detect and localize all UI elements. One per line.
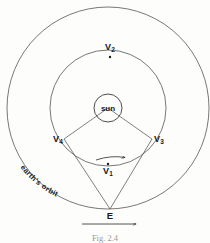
v1-label: V1 — [103, 166, 113, 177]
sun-label: sun — [101, 104, 115, 113]
v1-label-base: V — [103, 166, 109, 176]
earths-orbit-label: earth's orbit — [19, 163, 60, 199]
sightline-earth-to-v3 — [110, 139, 152, 209]
earth-label: E — [107, 210, 113, 221]
v4-label-subscript: 4 — [59, 138, 63, 145]
earths-orbit-label-text: earth's orbit — [19, 163, 60, 199]
figure-caption: Fig. 2.4 — [0, 233, 210, 243]
v3-label-base: V — [154, 134, 160, 144]
figure-container: sun V2 V3 V4 V1 E earth's orbit Fig. 2.4 — [0, 0, 210, 243]
v3-label: V3 — [154, 134, 164, 145]
orbit-diagram: sun V2 V3 V4 V1 E earth's orbit — [0, 0, 210, 243]
inner-orbit-direction-arrow — [96, 157, 125, 160]
v2-label: V2 — [105, 42, 115, 53]
v4-label-base: V — [53, 134, 59, 144]
v2-label-subscript: 2 — [111, 46, 115, 53]
v2-label-base: V — [105, 42, 111, 52]
v3-label-subscript: 3 — [160, 138, 164, 145]
v4-label: V4 — [53, 134, 63, 145]
v1-label-subscript: 1 — [109, 170, 113, 177]
point-marker-v2 — [109, 56, 111, 58]
point-marker-v1 — [107, 163, 109, 165]
